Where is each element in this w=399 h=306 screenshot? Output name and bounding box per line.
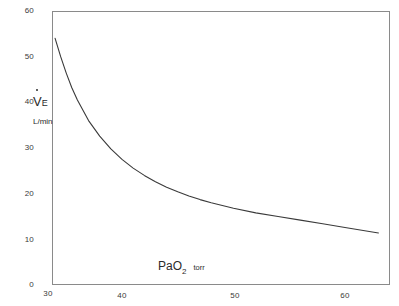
x-axis-label-subscript: 2	[182, 267, 186, 276]
v-dot-icon	[36, 89, 38, 91]
y-tick-label-40: 40	[8, 98, 34, 106]
x-axis-units: torr	[193, 263, 204, 272]
y-axis-label-subscript: E	[42, 98, 48, 108]
x-tick-label-30: 30	[33, 290, 63, 298]
x-axis-label: PaO2torr	[158, 256, 205, 276]
x-tick-label-40: 40	[107, 292, 137, 300]
x-tick-label-50: 50	[220, 292, 250, 300]
y-tick-label-20: 20	[8, 190, 34, 198]
chart-figure: 60 50 40 30 20 10 0 30 40 50 60 VE L/min…	[0, 0, 399, 306]
y-tick-label-10: 10	[8, 236, 34, 244]
plot-area-frame	[52, 11, 390, 285]
y-axis-label: VE	[33, 92, 48, 110]
x-axis-label-main: PaO	[158, 259, 182, 273]
y-tick-label-50: 50	[8, 53, 34, 61]
y-axis-label-letter: V	[33, 94, 42, 109]
y-tick-label-30: 30	[8, 144, 34, 152]
y-tick-label-0: 0	[8, 281, 34, 289]
y-axis-units: L/min	[33, 118, 53, 126]
x-tick-label-60: 60	[330, 292, 360, 300]
y-tick-label-60: 60	[8, 7, 34, 15]
